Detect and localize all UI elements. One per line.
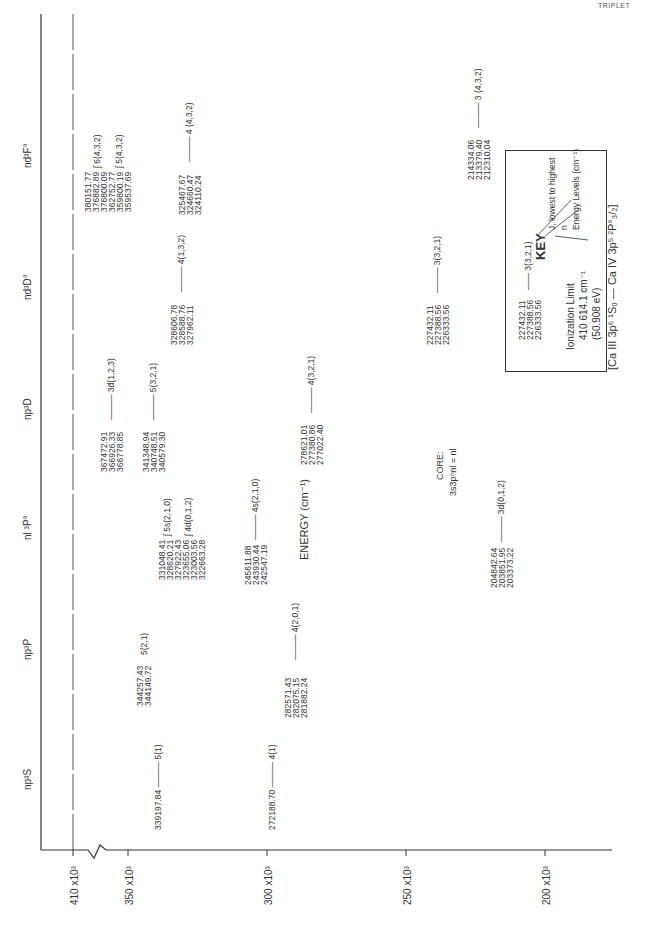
axis-label: ENERGY (cm⁻¹) <box>298 479 311 560</box>
key-annot-n: n <box>560 225 568 230</box>
level-npP-5: 344257.43344149.72 <box>136 666 152 706</box>
key-sample-values: 227432.11227388.56226333.56 <box>518 300 542 340</box>
level-npD-5-label: ——— 5(3,2,1) <box>149 363 157 420</box>
level-npD-4-label: ——— 4(3,2,1) <box>307 356 315 413</box>
header-nlP: nl ³P° <box>22 515 33 540</box>
header-npD: np³D <box>22 398 33 420</box>
level-ndF-4: 325467.67324660.47324110.24 <box>178 175 202 215</box>
level-nlP-5s4d: 331048.41328620.21327922.43 323655.06323… <box>158 540 206 580</box>
level-nlP-4d-label: ʃ 4d(0,1,2) <box>184 498 192 536</box>
level-ndF-3: 214334.06213379.40212310.04 <box>467 140 491 180</box>
level-nlP-4s: 245611.88243930.44242547.19 <box>244 545 268 585</box>
header-npP: np³P <box>22 639 33 660</box>
header-ndD: nd³D° <box>22 274 33 300</box>
level-ndD-4-label: ——— 4(1,3,2) <box>177 235 185 292</box>
key-sample-label: —— 3(3,2,1) <box>524 241 532 290</box>
level-npP-5-label: 5(2,1) <box>140 633 148 655</box>
core-title: CORE: <box>435 451 445 480</box>
level-ndD-3: 227432.11227388.56226333.56 <box>426 305 450 345</box>
ionization-line2: 410 614.1 cm⁻¹ <box>578 271 589 340</box>
level-ndF-3-label: ——— 3 (4,3,2) <box>474 68 482 128</box>
tick-300: 300 x10³ <box>263 866 274 905</box>
level-ndF-6-label: ʃ 6(4,3,2) <box>93 134 101 168</box>
level-npD-3d-label: ——— 3d̄(1,2,3) <box>107 358 115 420</box>
level-ndF-65: 380151.77376882.89376800.09 362752.77359… <box>84 172 132 212</box>
tick-350: 350 x10³ <box>124 866 135 905</box>
level-ndF-4-label: ——— 4 (4,3,2) <box>185 102 193 162</box>
key-annot-j: J, lowest to highest <box>548 158 556 230</box>
level-nlP-3d: 204842.64203851.95203373.22 <box>490 548 514 588</box>
level-nlP-3d-label: ——— 3d(0,1,2) <box>497 480 505 542</box>
ionization-transition: [Ca III 3p⁶ ¹S₀ — Ca IV 3p⁵ ²P°₃/₂] <box>606 204 618 370</box>
level-npS-4: 272188.70 ——— 4(1) <box>268 744 276 830</box>
level-ndD-4: 328606.78328588.76327962.11 <box>170 305 194 345</box>
tick-200: 200 x10³ <box>541 866 552 905</box>
key-title: KEY <box>533 233 548 260</box>
level-nlP-5s-label: ʃ 5s(2,1,0) <box>163 498 171 536</box>
level-npS-5: 339197.84 ——— 5(1) <box>154 744 162 830</box>
energy-level-diagram: TRIPLET 410 x10³ 350 x10³ 300 x10³ 250 x… <box>0 0 650 949</box>
level-npP-4: 282571.43282075.15281882.24 <box>284 678 308 718</box>
tick-250: 250 x10³ <box>402 866 413 905</box>
key-annot-energy: Energy Levels (cm⁻¹) <box>572 149 580 230</box>
ionization-line3: (50.908 eV) <box>591 288 602 340</box>
level-ndF-5-label: ʃ 5(4,3,2) <box>115 134 123 168</box>
level-ndD-3-label: ——— 3(3,2,1) <box>433 236 441 293</box>
header-ndF: nd³F° <box>22 143 33 168</box>
level-npD-3d: 367472.91366926.33366778.85 <box>100 432 124 472</box>
core-formula: 3s3p⁶nl = nl <box>448 449 458 497</box>
level-npD-5: 341348.94340748.51340579.30 <box>142 432 166 472</box>
tick-410: 410 x10³ <box>69 866 80 905</box>
level-npD-4: 278621.01277380.86277022.40 <box>300 425 324 465</box>
ionization-line1: Ionization Limit <box>565 283 576 350</box>
level-nlP-4s-label: ——— 4s(2,1,0) <box>251 479 259 540</box>
level-npP-4-label: ——— 4(2,0,1) <box>291 603 299 660</box>
header-npS: np³S <box>22 769 33 790</box>
